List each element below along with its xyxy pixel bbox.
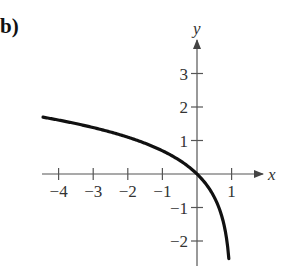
tick-labels: xy−4−3−2−11−2−1123 [50, 19, 276, 251]
x-tick-label: 1 [227, 182, 236, 201]
y-tick-label: 3 [180, 65, 189, 84]
x-tick-label: −3 [84, 182, 102, 201]
chart: xy−4−3−2−11−2−1123 [0, 0, 294, 275]
y-axis-label: y [191, 19, 201, 38]
ticks [59, 74, 232, 242]
x-tick-label: −1 [153, 182, 171, 201]
axes [42, 40, 263, 266]
y-tick-label: 2 [180, 98, 189, 117]
x-tick-label: −2 [119, 182, 137, 201]
y-tick-label: −2 [170, 232, 188, 251]
y-tick-label: 1 [180, 132, 189, 151]
x-axis-label: x [267, 165, 276, 184]
y-tick-label: −1 [170, 199, 188, 218]
x-tick-label: −4 [50, 182, 69, 201]
